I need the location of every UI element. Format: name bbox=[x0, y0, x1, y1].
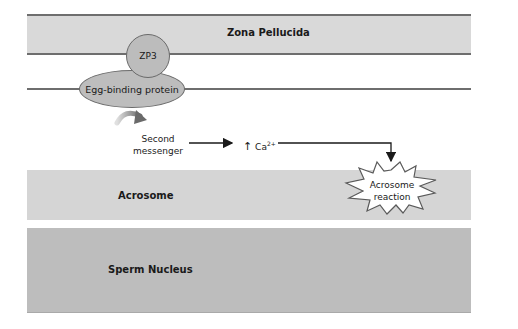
up-arrow-icon: ↑ bbox=[243, 140, 252, 153]
sperm-nucleus-label: Sperm Nucleus bbox=[108, 264, 193, 275]
second-messenger-label: Second messenger bbox=[128, 133, 188, 157]
acrosome-reaction-label: Acrosome reaction bbox=[367, 179, 417, 203]
egg-binding-protein-label: Egg-binding protein bbox=[85, 84, 179, 95]
calcium-increase-label: ↑ Ca2+ bbox=[243, 138, 276, 153]
egg-binding-protein: Egg-binding protein bbox=[79, 70, 185, 108]
acrosome-label: Acrosome bbox=[118, 190, 174, 201]
sperm-nucleus-layer bbox=[27, 228, 471, 313]
arrow-calcium-to-acrosome-reaction bbox=[278, 143, 391, 161]
curved-arrow-icon bbox=[117, 110, 147, 124]
zp3-label: ZP3 bbox=[139, 51, 156, 61]
zp3-molecule: ZP3 bbox=[126, 34, 170, 78]
zona-pellucida-label: Zona Pellucida bbox=[227, 27, 310, 38]
